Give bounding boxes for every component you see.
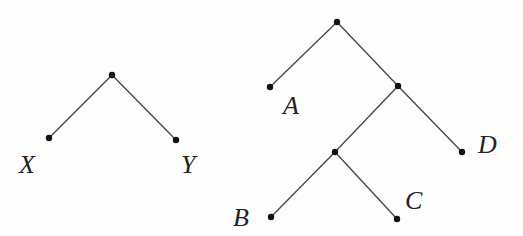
label-c: C <box>405 188 422 214</box>
node-internal-1 <box>395 83 401 89</box>
edge-root-a <box>270 22 337 87</box>
node-y <box>173 137 179 143</box>
node-a <box>267 84 273 90</box>
edge-n2-b <box>271 152 335 217</box>
node-c <box>394 216 400 222</box>
label-x: X <box>19 152 35 178</box>
edge-n1-d <box>398 86 462 152</box>
edge-root-y <box>112 75 176 140</box>
edge-n2-c <box>335 152 397 219</box>
tree-graphics <box>0 0 523 236</box>
node-internal-2 <box>332 149 338 155</box>
node-right-root <box>334 19 340 25</box>
node-x <box>46 135 52 141</box>
label-a: A <box>283 93 299 119</box>
edge-root-x <box>49 75 112 138</box>
node-b <box>268 214 274 220</box>
edge-n1-n2 <box>335 86 398 152</box>
node-d <box>459 149 465 155</box>
label-b: B <box>233 205 249 231</box>
label-d: D <box>478 132 497 158</box>
node-left-root <box>109 72 115 78</box>
label-y: Y <box>181 152 195 178</box>
tree-diagram: X Y A D C B <box>0 0 523 236</box>
edge-root-n1 <box>337 22 398 86</box>
